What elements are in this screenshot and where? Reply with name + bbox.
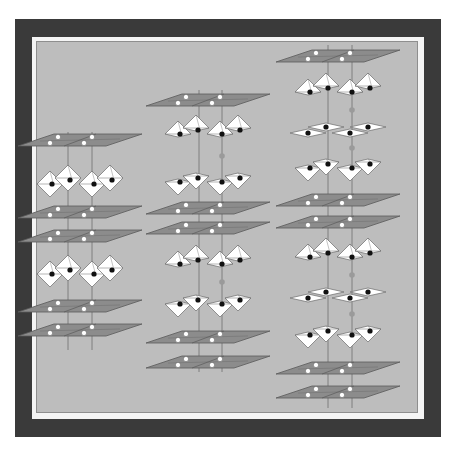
white-atom xyxy=(209,208,214,213)
white-atom xyxy=(175,337,180,342)
white-atom xyxy=(305,368,310,373)
white-atom xyxy=(81,306,86,311)
white-atom xyxy=(209,362,214,367)
black-atom xyxy=(367,85,372,90)
column-middle xyxy=(146,90,270,372)
white-atom xyxy=(209,100,214,105)
white-atom xyxy=(313,362,318,367)
black-atom xyxy=(349,254,354,259)
white-atom xyxy=(47,330,52,335)
white-atom xyxy=(217,202,222,207)
black-atom xyxy=(349,89,354,94)
white-atom xyxy=(81,212,86,217)
black-atom xyxy=(237,175,242,180)
black-atom xyxy=(347,130,352,135)
white-atom xyxy=(313,386,318,391)
interlayer-atom xyxy=(219,279,225,285)
white-atom xyxy=(217,94,222,99)
black-atom xyxy=(177,179,182,184)
white-atom xyxy=(339,368,344,373)
black-atom xyxy=(177,261,182,266)
black-atom xyxy=(367,328,372,333)
white-atom xyxy=(305,392,310,397)
white-atom xyxy=(339,56,344,61)
white-atom xyxy=(313,50,318,55)
white-atom xyxy=(305,222,310,227)
black-atom xyxy=(307,332,312,337)
black-atom xyxy=(109,267,114,272)
black-atom xyxy=(325,250,330,255)
white-atom xyxy=(347,194,352,199)
white-atom xyxy=(217,356,222,361)
white-atom xyxy=(89,206,94,211)
white-atom xyxy=(183,331,188,336)
white-atom xyxy=(55,134,60,139)
black-atom xyxy=(237,257,242,262)
white-atom xyxy=(89,134,94,139)
black-atom xyxy=(91,271,96,276)
black-atom xyxy=(109,177,114,182)
white-atom xyxy=(47,236,52,241)
black-atom xyxy=(219,261,224,266)
crystal-structure-diagram xyxy=(0,0,457,452)
black-atom xyxy=(323,124,328,129)
white-atom xyxy=(183,222,188,227)
column-right xyxy=(276,45,400,408)
white-atom xyxy=(47,140,52,145)
white-atom xyxy=(209,337,214,342)
white-atom xyxy=(347,216,352,221)
white-atom xyxy=(55,324,60,329)
white-atom xyxy=(217,331,222,336)
white-atom xyxy=(55,300,60,305)
interlayer-atom xyxy=(349,145,355,151)
black-atom xyxy=(307,89,312,94)
white-atom xyxy=(89,324,94,329)
black-atom xyxy=(195,175,200,180)
black-atom xyxy=(367,161,372,166)
white-atom xyxy=(175,362,180,367)
interlayer-atom xyxy=(349,272,355,278)
black-atom xyxy=(49,271,54,276)
black-atom xyxy=(177,301,182,306)
interlayer-atom xyxy=(349,107,355,113)
white-atom xyxy=(347,362,352,367)
black-atom xyxy=(177,131,182,136)
white-atom xyxy=(339,392,344,397)
white-atom xyxy=(81,140,86,145)
white-atom xyxy=(55,230,60,235)
white-atom xyxy=(347,50,352,55)
white-atom xyxy=(305,200,310,205)
black-atom xyxy=(325,328,330,333)
black-atom xyxy=(305,295,310,300)
white-atom xyxy=(347,386,352,391)
black-atom xyxy=(365,289,370,294)
black-atom xyxy=(237,297,242,302)
black-atom xyxy=(219,301,224,306)
interlayer-atom xyxy=(219,153,225,159)
white-atom xyxy=(81,236,86,241)
black-atom xyxy=(219,179,224,184)
white-atom xyxy=(89,300,94,305)
white-atom xyxy=(175,228,180,233)
black-atom xyxy=(219,131,224,136)
black-atom xyxy=(367,250,372,255)
white-atom xyxy=(55,206,60,211)
black-atom xyxy=(349,165,354,170)
black-atom xyxy=(347,295,352,300)
black-atom xyxy=(67,267,72,272)
white-atom xyxy=(183,94,188,99)
white-atom xyxy=(339,222,344,227)
black-atom xyxy=(237,127,242,132)
black-atom xyxy=(195,297,200,302)
black-atom xyxy=(49,181,54,186)
white-atom xyxy=(183,356,188,361)
black-atom xyxy=(365,124,370,129)
black-atom xyxy=(195,257,200,262)
white-atom xyxy=(305,56,310,61)
black-atom xyxy=(323,289,328,294)
black-atom xyxy=(307,165,312,170)
white-atom xyxy=(209,228,214,233)
black-atom xyxy=(91,181,96,186)
black-atom xyxy=(325,85,330,90)
white-atom xyxy=(313,194,318,199)
